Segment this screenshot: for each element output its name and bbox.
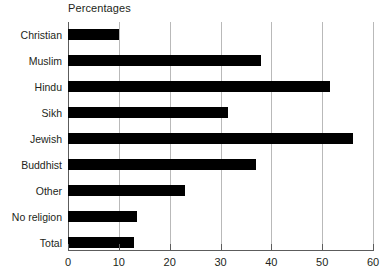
- category-label: Other: [0, 185, 62, 197]
- category-label: Total: [0, 237, 62, 249]
- bar: [68, 159, 256, 170]
- bar: [68, 29, 119, 40]
- x-axis-tick-label: 60: [358, 256, 380, 268]
- category-label: Christian: [0, 29, 62, 41]
- x-axis-tick: [322, 244, 323, 250]
- bar: [68, 107, 228, 118]
- x-axis-tick-label: 0: [53, 256, 83, 268]
- category-label: Jewish: [0, 133, 62, 145]
- x-axis-tick: [271, 244, 272, 250]
- bar-row: [68, 74, 373, 100]
- category-label: Sikh: [0, 107, 62, 119]
- x-axis-tick-label: 30: [206, 256, 236, 268]
- bar-row: [68, 230, 373, 256]
- bar-row: [68, 100, 373, 126]
- x-axis-tick-label: 50: [307, 256, 337, 268]
- bar-row: [68, 178, 373, 204]
- category-label: Hindu: [0, 81, 62, 93]
- bar-row: [68, 22, 373, 48]
- gridline: [373, 22, 374, 250]
- x-axis-tick-label: 20: [155, 256, 185, 268]
- bar: [68, 55, 261, 66]
- x-axis-tick: [68, 244, 69, 250]
- x-axis-tick-label: 10: [104, 256, 134, 268]
- bar-chart: Percentages 0102030405060 ChristianMusli…: [0, 0, 380, 276]
- bar-row: [68, 126, 373, 152]
- bar: [68, 185, 185, 196]
- bar-row: [68, 48, 373, 74]
- bar: [68, 211, 137, 222]
- category-label: Muslim: [0, 55, 62, 67]
- chart-title: Percentages: [68, 2, 131, 14]
- x-axis-tick: [170, 244, 171, 250]
- x-axis-tick: [373, 244, 374, 250]
- x-axis-tick-label: 40: [256, 256, 286, 268]
- bar-row: [68, 204, 373, 230]
- bar: [68, 133, 353, 144]
- x-axis-tick: [119, 244, 120, 250]
- bar: [68, 81, 330, 92]
- bar: [68, 237, 134, 248]
- plot-area: [68, 22, 373, 250]
- category-label: Buddhist: [0, 159, 62, 171]
- bar-row: [68, 152, 373, 178]
- category-label: No religion: [0, 211, 62, 223]
- x-axis-tick: [221, 244, 222, 250]
- x-axis-line: [68, 250, 374, 251]
